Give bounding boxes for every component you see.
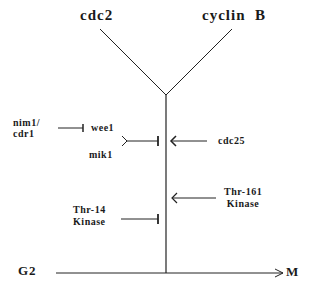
nim1-label-line2: cdr1 xyxy=(13,128,40,139)
wee1-label: wee1 xyxy=(91,123,114,133)
thr14-label-line2: Kinase xyxy=(73,216,106,228)
wee1-mik1-bracket xyxy=(122,136,127,146)
cyclin-b-line xyxy=(166,29,232,95)
diagram-lines xyxy=(0,0,311,294)
m-label: M xyxy=(286,265,299,278)
thr161-label-line1: Thr-161 xyxy=(224,186,262,198)
thr14-kinase-label: Thr-14 Kinase xyxy=(73,204,106,228)
cdc2-line xyxy=(100,29,166,95)
cdc2-label: cdc2 xyxy=(80,8,113,23)
thr161-kinase-label: Thr-161 Kinase xyxy=(224,186,262,210)
thr14-label-line1: Thr-14 xyxy=(73,204,106,216)
thr161-label-line2: Kinase xyxy=(224,198,262,210)
g2-label: G2 xyxy=(18,264,37,277)
cyclin-b-label: cyclin B xyxy=(202,8,266,23)
nim1-cdr1-label: nim1/ cdr1 xyxy=(13,117,40,139)
cell-cycle-diagram: cdc2 cyclin B nim1/ cdr1 wee1 mik1 cdc25… xyxy=(0,0,311,294)
mik1-label: mik1 xyxy=(89,150,113,160)
nim1-label-line1: nim1/ xyxy=(13,117,40,128)
cdc25-label: cdc25 xyxy=(218,136,245,146)
